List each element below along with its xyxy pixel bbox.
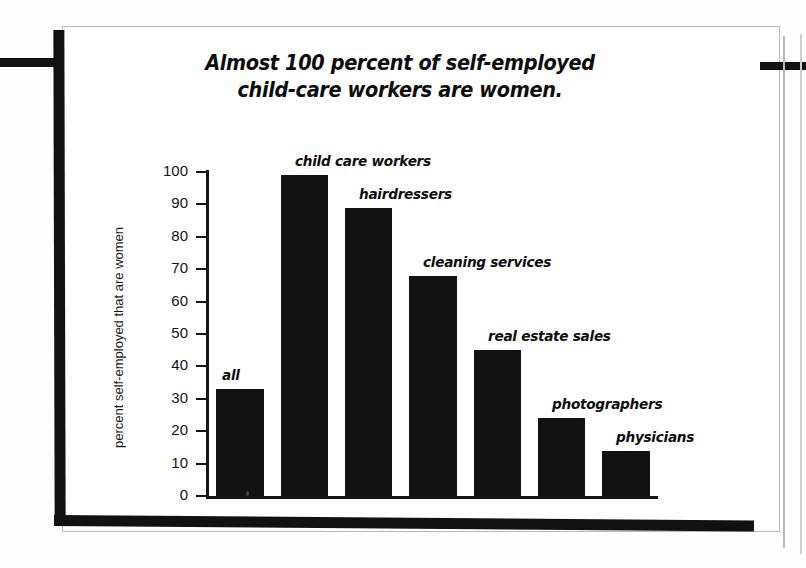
y-tick-mark	[196, 333, 206, 335]
bar[interactable]	[281, 175, 329, 496]
y-tick-mark	[196, 268, 206, 270]
x-axis-line	[206, 496, 658, 499]
bar-category-label: hairdressers	[359, 186, 452, 202]
y-tick-mark	[196, 171, 206, 173]
y-tick-label: 0	[142, 486, 188, 503]
y-tick-mark	[196, 463, 206, 465]
y-tick-mark	[196, 398, 206, 400]
y-tick-mark	[196, 365, 206, 367]
y-tick-label: 40	[142, 356, 188, 373]
bar[interactable]	[409, 276, 457, 496]
bar[interactable]	[345, 208, 393, 496]
y-tick-label: 20	[142, 421, 188, 438]
y-tick-label: 10	[142, 454, 188, 471]
bar-category-label: all	[222, 367, 240, 383]
y-tick-mark	[196, 301, 206, 303]
bar-category-label: physicians	[616, 429, 694, 445]
bar-category-label: photographers	[552, 396, 662, 412]
bar[interactable]	[216, 389, 264, 496]
y-tick-label: 50	[142, 324, 188, 341]
scanned-page: Almost 100 percent of self-employed chil…	[0, 0, 806, 568]
scan-speck	[246, 491, 249, 496]
bar-category-label: child care workers	[295, 153, 431, 169]
y-tick-label: 90	[142, 194, 188, 211]
bar-category-label: cleaning services	[423, 254, 551, 270]
y-tick-label: 30	[142, 389, 188, 406]
bar-chart: percent self-employed that are women 010…	[0, 0, 806, 568]
y-tick-mark	[196, 495, 206, 497]
y-tick-mark	[196, 236, 206, 238]
y-axis-title: percent self-employed that are women	[111, 208, 126, 468]
y-tick-label: 100	[142, 162, 188, 179]
y-tick-label: 70	[142, 259, 188, 276]
y-tick-mark	[196, 203, 206, 205]
bar[interactable]	[474, 350, 522, 496]
bar[interactable]	[602, 451, 650, 496]
y-tick-label: 60	[142, 292, 188, 309]
bar[interactable]	[538, 418, 586, 496]
y-tick-label: 80	[142, 227, 188, 244]
y-tick-mark	[196, 430, 206, 432]
plot-area: allchild care workershairdresserscleanin…	[208, 172, 658, 496]
bar-category-label: real estate sales	[488, 328, 611, 344]
